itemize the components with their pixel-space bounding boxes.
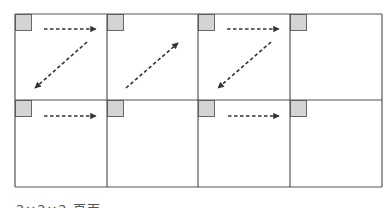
grid-cell-r2c4 [291, 101, 307, 117]
dashed-arrow-down-left-icon [218, 42, 271, 88]
corner-square [16, 15, 32, 31]
figure-caption: 2×2×2 页面 [16, 199, 101, 208]
corner-square [108, 101, 124, 117]
dashed-arrow-up-right-icon [126, 43, 178, 88]
grid-cell-r2c2 [108, 101, 124, 117]
dashed-arrow-down-left-icon [35, 42, 87, 88]
corner-square [291, 101, 307, 117]
grid-cell-r2c3 [199, 101, 215, 117]
grid-lines [15, 14, 382, 187]
grid-cell-r1c1 [16, 15, 32, 31]
corner-square [199, 101, 215, 117]
grid-cell-r2c1 [16, 101, 32, 117]
grid-arrow-diagram [0, 0, 384, 208]
grid-cell-r1c3 [199, 15, 215, 31]
grid-cell-r1c4 [291, 15, 307, 31]
corner-square [291, 15, 307, 31]
corner-square [108, 15, 124, 31]
corner-square [199, 15, 215, 31]
grid-cell-r1c2 [108, 15, 124, 31]
corner-square [16, 101, 32, 117]
